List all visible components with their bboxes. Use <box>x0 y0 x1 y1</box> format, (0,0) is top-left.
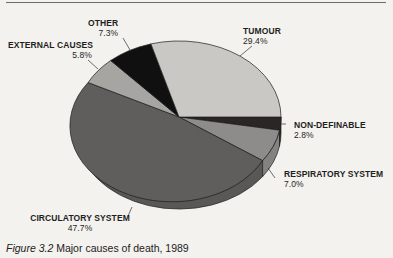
label-tumour: TUMOUR 29.4% <box>243 26 281 46</box>
label-other-name: OTHER <box>88 18 118 28</box>
label-nondef-name: NON-DEFINABLE <box>294 120 366 130</box>
label-resp-pct: 7.0% <box>284 179 383 189</box>
label-circ-name: CIRCULATORY SYSTEM <box>30 213 130 223</box>
label-resp-name: RESPIRATORY SYSTEM <box>284 169 383 179</box>
figure-caption-text: Major causes of death, 1989 <box>56 242 189 254</box>
label-respiratory: RESPIRATORY SYSTEM 7.0% <box>284 169 383 189</box>
label-external-pct: 5.8% <box>8 50 92 60</box>
figure-label: Figure 3.2 <box>6 242 53 254</box>
label-nondefinable: NON-DEFINABLE 2.8% <box>294 120 366 140</box>
label-other: OTHER 7.3% <box>88 18 118 38</box>
label-other-pct: 7.3% <box>88 28 118 38</box>
figure-caption: Figure 3.2 Major causes of death, 1989 <box>6 242 189 254</box>
label-nondef-pct: 2.8% <box>294 130 366 140</box>
label-external-name: EXTERNAL CAUSES <box>8 40 93 50</box>
label-tumour-pct: 29.4% <box>243 36 281 46</box>
label-circulatory: CIRCULATORY SYSTEM 47.7% <box>25 213 135 233</box>
label-circ-pct: 47.7% <box>25 223 135 233</box>
label-external: EXTERNAL CAUSES 5.8% <box>8 40 92 60</box>
label-tumour-name: TUMOUR <box>243 26 281 36</box>
